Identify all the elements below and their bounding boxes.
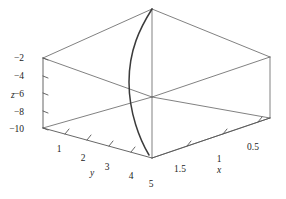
x-axis-label: x — [216, 165, 222, 175]
plot-figure: −2 −4 −6 −8 −10 z 1 2 3 4 5 y 1.5 1 0.5 … — [0, 0, 286, 199]
box-top-back-right-edge — [152, 9, 270, 57]
y-tick-labels: 1 2 3 4 5 — [57, 144, 154, 189]
x-axis-line — [152, 118, 270, 158]
z-tick-minus8 — [43, 111, 48, 113]
z-axis-label: z — [10, 90, 15, 100]
z-tick-label-minus10: −10 — [9, 124, 24, 134]
space-curve-path — [129, 9, 152, 155]
z-tick-label-minus4: −4 — [14, 71, 24, 81]
x-tick-label-0point5: 0.5 — [247, 142, 259, 152]
z-tick-minus4 — [43, 76, 48, 78]
box-top-front-left-edge — [43, 58, 152, 97]
x-tick-label-1: 1 — [217, 154, 222, 164]
z-tick-minus2 — [43, 58, 48, 60]
z-axis-group — [43, 58, 48, 130]
z-tick-minus6 — [43, 93, 48, 95]
bounding-box-wireframe — [43, 9, 270, 158]
box-top-back-left-edge — [43, 9, 152, 58]
y-tick-label-2: 2 — [81, 153, 86, 163]
y-tick-2 — [87, 135, 91, 140]
y-tick-3 — [109, 141, 113, 146]
box-bottom-back-right-edge — [152, 97, 270, 118]
y-tick-label-1: 1 — [57, 144, 62, 154]
z-tick-label-minus2: −2 — [14, 53, 24, 63]
y-tick-label-3: 3 — [105, 162, 110, 172]
plot-canvas: −2 −4 −6 −8 −10 z 1 2 3 4 5 y 1.5 1 0.5 … — [0, 0, 286, 199]
z-tick-label-minus6: −6 — [14, 89, 24, 99]
y-tick-label-5: 5 — [149, 179, 154, 189]
z-tick-label-minus8: −8 — [14, 107, 24, 117]
y-tick-4 — [131, 147, 135, 152]
y-tick-label-4: 4 — [129, 171, 134, 181]
y-tick-1 — [65, 129, 69, 134]
box-top-front-right-edge — [152, 57, 270, 97]
x-tick-label-1point5: 1.5 — [174, 164, 186, 174]
y-axis-label: y — [89, 168, 95, 178]
